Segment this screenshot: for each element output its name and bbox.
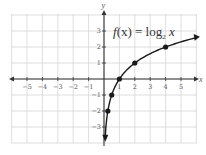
x-tick-label: −1 bbox=[84, 83, 94, 91]
x-tick-label: −2 bbox=[68, 83, 78, 91]
y-tick-label: −3 bbox=[91, 123, 101, 131]
curve-down-arrow-icon bbox=[102, 135, 108, 142]
x-tick-label: 3 bbox=[148, 83, 152, 91]
y-tick-label: −1 bbox=[91, 91, 101, 99]
x-tick-label: 5 bbox=[179, 83, 183, 91]
x-tick-label: −3 bbox=[53, 83, 63, 91]
x-tick-label: 4 bbox=[164, 83, 168, 91]
data-point bbox=[105, 108, 110, 113]
x-tick-label: 1 bbox=[117, 83, 121, 91]
data-point bbox=[109, 92, 114, 97]
x-tick-label: −5 bbox=[22, 83, 32, 91]
function-label-text: (x) = log bbox=[117, 24, 163, 39]
data-point bbox=[132, 60, 137, 65]
y-axis-up-arrow-icon bbox=[102, 10, 107, 15]
function-label-variable: x bbox=[166, 24, 175, 39]
y-tick-label: 1 bbox=[97, 59, 101, 67]
function-label: f(x) = log2 x bbox=[113, 24, 175, 41]
y-tick-label: −2 bbox=[91, 107, 101, 115]
x-axis-label: x bbox=[198, 75, 203, 84]
y-tick-label: 2 bbox=[97, 43, 101, 51]
x-tick-label: −4 bbox=[38, 83, 48, 91]
y-axis-label: y bbox=[101, 1, 106, 10]
data-point bbox=[163, 44, 168, 49]
y-tick-label: 3 bbox=[97, 27, 101, 35]
data-point bbox=[117, 76, 122, 81]
x-tick-label: 2 bbox=[133, 83, 137, 91]
log-function-graph: −5−4−3−2−112345−3−2−1123 x y f(x) = log2… bbox=[0, 0, 206, 155]
